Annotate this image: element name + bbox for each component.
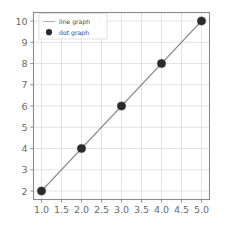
x-tick-label: 1.5: [54, 204, 69, 215]
y-tick-label: 10: [15, 16, 27, 27]
y-tick-label: 4: [21, 143, 27, 154]
data-point: [197, 17, 205, 25]
legend-label-dot-graph: dot graph: [59, 29, 89, 37]
x-tick-label: 2.5: [94, 204, 109, 215]
y-tick-label: 3: [21, 164, 27, 175]
chart-figure: 1.01.52.02.53.03.54.04.55.0 2345678910 l…: [0, 0, 237, 228]
x-tick-label: 4.5: [174, 204, 189, 215]
y-tick-label: 5: [21, 122, 27, 133]
legend-label-line-graph: line graph: [59, 18, 90, 26]
y-tick-label: 9: [21, 37, 27, 48]
y-tick-label: 6: [21, 101, 27, 112]
x-tick-label: 4.0: [154, 204, 169, 215]
x-tick-label: 2.0: [74, 204, 89, 215]
x-tick-label: 3.5: [134, 204, 149, 215]
y-axis-tick-labels: 2345678910: [15, 16, 27, 197]
data-point: [77, 144, 85, 152]
data-point: [37, 187, 45, 195]
y-tick-label: 8: [21, 58, 27, 69]
x-tick-label: 5.0: [194, 204, 209, 215]
x-axis-tick-labels: 1.01.52.02.53.03.54.04.55.0: [34, 204, 209, 215]
x-tick-label: 1.0: [34, 204, 49, 215]
y-tick-label: 2: [21, 186, 27, 197]
data-point: [117, 102, 125, 110]
x-tick-label: 3.0: [114, 204, 129, 215]
y-tick-label: 7: [21, 79, 27, 90]
chart-legend: line graph dot graph: [39, 14, 107, 40]
legend-marker-sample: [46, 29, 52, 35]
line-chart-canvas: 1.01.52.02.53.03.54.04.55.0 2345678910 l…: [0, 0, 237, 228]
data-point: [157, 59, 165, 67]
